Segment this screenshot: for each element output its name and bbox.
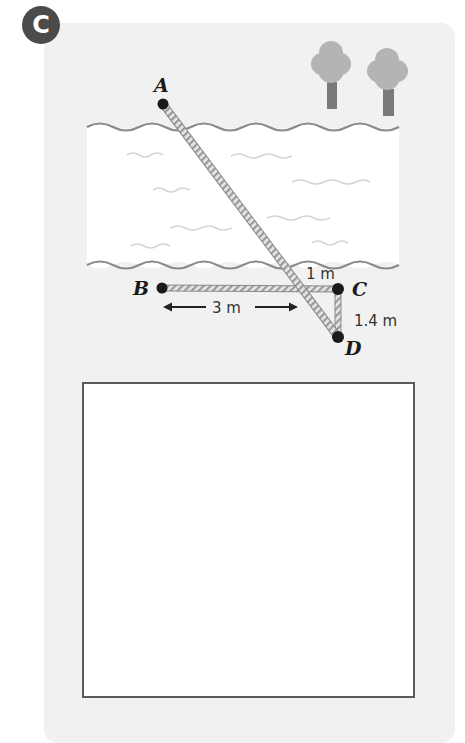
answer-box[interactable] — [82, 382, 415, 698]
tree-icon — [367, 48, 408, 116]
point-A — [158, 99, 169, 110]
tree-icon — [311, 41, 351, 109]
label-1m: 1 m — [306, 265, 335, 283]
label-B: B — [132, 277, 149, 299]
label-C: C — [352, 278, 367, 300]
label-A: A — [152, 74, 169, 96]
point-D — [332, 331, 344, 343]
river-water — [87, 124, 399, 269]
label-1-4m: 1.4 m — [354, 312, 397, 330]
point-C — [332, 283, 344, 295]
label-3m: 3 m — [212, 299, 241, 317]
label-D: D — [344, 337, 362, 359]
point-B — [157, 283, 168, 294]
